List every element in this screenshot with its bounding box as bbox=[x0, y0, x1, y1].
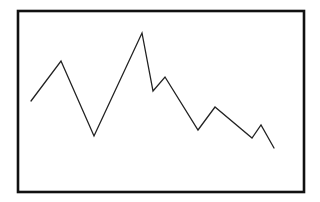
chart-frame bbox=[18, 11, 304, 192]
line-sketch-figure bbox=[0, 0, 320, 202]
line-chart-svg bbox=[0, 0, 320, 202]
data-line bbox=[31, 33, 274, 148]
